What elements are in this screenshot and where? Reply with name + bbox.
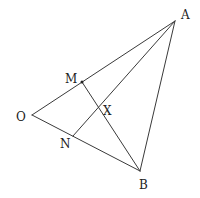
label-A: A — [180, 8, 190, 22]
segment-MB — [82, 82, 140, 171]
label-N: N — [60, 137, 71, 151]
geometry-diagram: A O B M N X — [0, 0, 200, 198]
label-X: X — [103, 104, 112, 118]
label-O: O — [16, 110, 26, 124]
segment-OB — [32, 115, 140, 171]
point-M-dot — [81, 81, 84, 84]
segment-AB — [140, 21, 175, 171]
label-M: M — [65, 72, 77, 86]
label-B: B — [139, 178, 148, 192]
